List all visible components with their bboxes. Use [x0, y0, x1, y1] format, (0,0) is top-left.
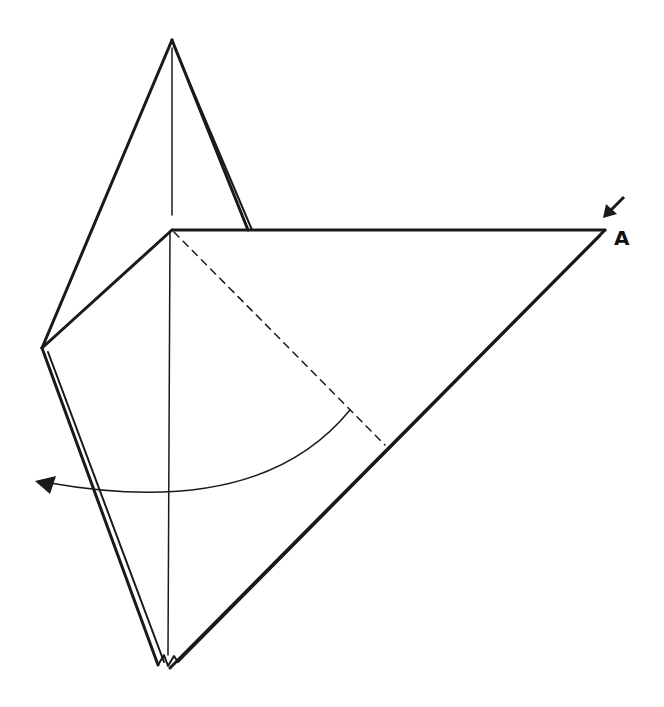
- left-lower-edge-outer: [42, 348, 158, 665]
- push-arrow-icon: [603, 197, 624, 218]
- front-flap-left-edge: [42, 230, 172, 348]
- fold-arrow-head-icon: [35, 476, 56, 494]
- left-lower-edge-inner: [48, 352, 164, 662]
- valley-fold-line: [174, 232, 385, 445]
- top-flap-right-edge-inner: [174, 46, 252, 230]
- center-crease-lower: [168, 232, 170, 655]
- point-a-label: A: [614, 226, 629, 250]
- origami-diagram: [0, 0, 664, 707]
- top-flap-left-edge: [42, 40, 172, 348]
